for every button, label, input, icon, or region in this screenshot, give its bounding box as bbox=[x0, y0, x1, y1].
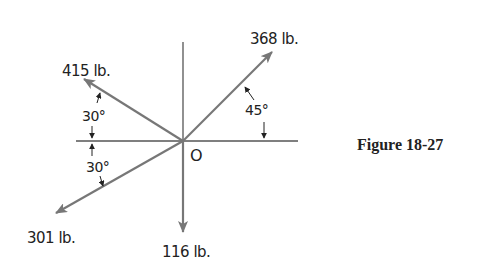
angle-30-upper-label: 30° bbox=[82, 108, 105, 124]
force-368-arrow bbox=[183, 52, 272, 141]
angle-45-arc-top bbox=[245, 87, 254, 100]
force-diagram: 45° 30° 30° 368 lb. 415 lb. 301 lb. 116 … bbox=[0, 0, 492, 271]
force-415-label: 415 lb. bbox=[62, 62, 110, 80]
force-301-label: 301 lb. bbox=[27, 229, 75, 247]
figure-caption: Figure 18-27 bbox=[357, 136, 443, 154]
force-116-label: 116 lb. bbox=[162, 243, 210, 261]
origin-label: O bbox=[190, 146, 203, 165]
force-368-label: 368 lb. bbox=[250, 30, 298, 48]
angle-30-lower-label: 30° bbox=[86, 159, 109, 175]
angle-45-label: 45° bbox=[245, 102, 268, 118]
force-301-arrow bbox=[56, 141, 183, 213]
angle-30-upper-arc-top bbox=[97, 93, 100, 103]
angle-30-lower-arc-bottom bbox=[100, 176, 103, 186]
